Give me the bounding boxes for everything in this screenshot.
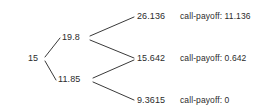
edge-up-to-terminal-up-up xyxy=(90,17,134,36)
node-terminal-down-down: 9.3615 xyxy=(137,95,165,105)
edge-up-to-terminal-mid xyxy=(90,40,134,58)
payoff-terminal-up-up: call-payoff: 11.136 xyxy=(180,11,251,21)
node-terminal-mid: 15.642 xyxy=(137,53,165,63)
edge-root-to-up xyxy=(45,38,60,57)
payoff-terminal-mid: call-payoff: 0.642 xyxy=(180,53,246,63)
node-terminal-up-up: 26.136 xyxy=(137,11,165,21)
edge-down-to-terminal-mid xyxy=(93,60,134,78)
edge-down-to-terminal-down-down xyxy=(93,82,134,100)
node-up: 19.8 xyxy=(62,32,80,42)
binomial-tree-diagram: 15 19.8 11.85 26.136 15.642 9.3615 call-… xyxy=(0,0,270,112)
node-down: 11.85 xyxy=(58,74,80,84)
payoff-terminal-down-down: call-payoff: 0 xyxy=(180,95,229,105)
node-root: 15 xyxy=(28,53,38,63)
edge-root-to-down xyxy=(45,61,56,80)
